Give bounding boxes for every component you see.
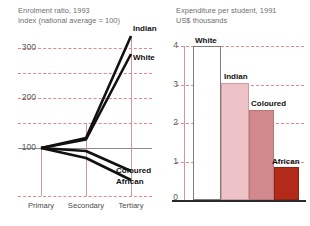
bar-label-coloured: Coloured (251, 99, 286, 108)
line-chart-panel: Enrolment ratio, 1993 Index (national av… (0, 0, 158, 226)
bar-chart-subtitle: US$ thousands (176, 16, 227, 26)
bar-y-axis-spine (184, 46, 185, 200)
series-label-african: African (116, 177, 144, 186)
series-line-indian (41, 36, 131, 148)
bar-x-axis-baseline (172, 200, 306, 202)
bar-coloured (249, 110, 274, 201)
bar-ytick-1: 1 (158, 157, 178, 166)
bar-african (274, 167, 299, 200)
bar-ytick-4: 4 (158, 41, 178, 50)
two-chart-figure: Enrolment ratio, 1993 Index (national av… (0, 0, 310, 226)
series-label-indian: Indian (133, 24, 157, 33)
bar-ytick-3: 3 (158, 80, 178, 89)
bar-white (193, 46, 221, 200)
bar-ytick-2: 2 (158, 118, 178, 127)
line-series-group (0, 0, 158, 226)
series-label-coloured: Coloured (116, 166, 151, 175)
bar-label-white: White (195, 36, 217, 45)
bar-label-indian: Indian (224, 72, 248, 81)
bar-ytick-0: 0 (158, 193, 178, 202)
bar-label-african: African (272, 157, 300, 166)
bar-chart-panel: Expenditure per student, 1991 US$ thousa… (158, 0, 310, 226)
series-label-white: White (133, 53, 155, 62)
line-xtick-tertiary: Tertiary (105, 201, 157, 210)
bar-indian (221, 83, 249, 200)
bar-chart-title: Expenditure per student, 1991 (176, 6, 276, 16)
